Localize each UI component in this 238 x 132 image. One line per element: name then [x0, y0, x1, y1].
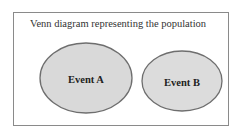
venn-svg: [0, 0, 238, 132]
event-a-label: Event A: [68, 74, 104, 85]
event-b-label: Event B: [164, 77, 200, 88]
